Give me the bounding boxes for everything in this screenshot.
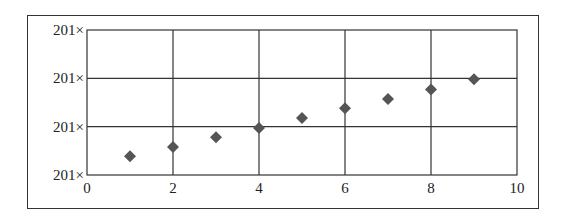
y-tick-label: 201× bbox=[53, 119, 84, 135]
diamond-marker bbox=[339, 102, 351, 114]
x-tick-label: 2 bbox=[169, 180, 177, 196]
diamond-marker bbox=[124, 150, 136, 162]
scatter-chart: 0246810 201×201×201×201× bbox=[0, 0, 562, 220]
plot-area bbox=[87, 30, 517, 175]
x-tick-label: 4 bbox=[255, 180, 263, 196]
diamond-marker bbox=[425, 83, 437, 95]
y-tick-label: 201× bbox=[53, 70, 84, 86]
diamond-marker bbox=[210, 131, 222, 143]
y-tick-label: 201× bbox=[53, 167, 84, 183]
diamond-marker bbox=[382, 93, 394, 105]
data-points bbox=[124, 73, 480, 162]
y-tick-label: 201× bbox=[53, 22, 84, 38]
x-tick-label: 10 bbox=[510, 180, 525, 196]
diamond-marker bbox=[253, 122, 265, 134]
x-tick-label: 0 bbox=[83, 180, 91, 196]
y-axis-tick-labels: 201×201×201×201× bbox=[53, 22, 84, 183]
diamond-marker bbox=[468, 73, 480, 85]
diamond-marker bbox=[167, 141, 179, 153]
x-tick-label: 8 bbox=[427, 180, 435, 196]
x-tick-label: 6 bbox=[341, 180, 349, 196]
diamond-marker bbox=[296, 112, 308, 124]
x-axis-tick-labels: 0246810 bbox=[83, 180, 524, 196]
grid-lines bbox=[87, 30, 517, 175]
